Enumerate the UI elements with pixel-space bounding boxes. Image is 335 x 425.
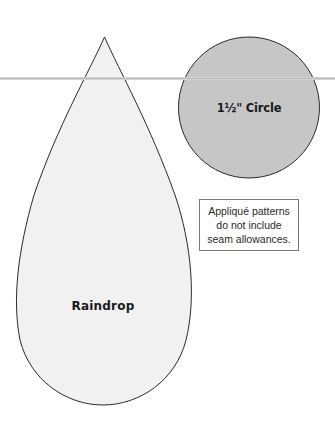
seam-allowance-note: Appliqué patterns do not include seam al… (199, 199, 299, 251)
note-line-1: Appliqué patterns (208, 204, 290, 218)
raindrop-shape (16, 37, 191, 405)
circle-label: 1½" Circle (199, 101, 299, 115)
raindrop-label: Raindrop (53, 299, 153, 313)
note-line-3: seam allowances. (207, 232, 290, 246)
fold-line (0, 77, 335, 80)
note-line-2: do not include (216, 218, 281, 232)
